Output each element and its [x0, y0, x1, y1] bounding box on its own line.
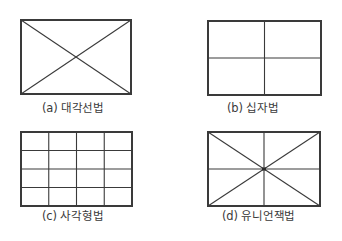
caption-d: (d) 유니언잭법 [222, 210, 295, 223]
diagram-canvas: (a) 대각선법 (b) 십자법 (c) 사각형법 [0, 0, 342, 241]
caption-c: (c) 사각형법 [42, 210, 103, 223]
union-jack-rectangle-figure [208, 132, 320, 206]
center-point [262, 168, 266, 171]
caption-a: (a) 대각선법 [42, 102, 104, 115]
cross-rectangle-figure [208, 21, 321, 95]
caption-b: (b) 십자법 [227, 102, 279, 115]
diagonal-rectangle-figure [21, 20, 131, 94]
grid-rectangle-figure [21, 132, 132, 206]
